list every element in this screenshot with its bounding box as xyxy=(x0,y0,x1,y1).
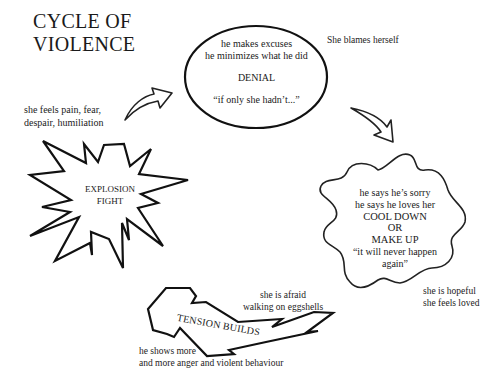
fight-label: FIGHT xyxy=(55,195,165,207)
explosion-side-note: she feels pain, fear, despair, humiliati… xyxy=(24,103,104,129)
tension-top-note-2: walking on eggshells xyxy=(213,301,353,313)
make-up-label: MAKE UP xyxy=(330,234,460,246)
title-line-2: VIOLENCE xyxy=(33,33,135,56)
explosion-side-note-2: despair, humiliation xyxy=(24,116,104,129)
cool-down-stage-text: he says he’s sorry he says he loves her … xyxy=(330,187,460,270)
cool-down-side-note-2: she feels loved xyxy=(423,297,479,309)
cool-down-side-note: she is hopeful she feels loved xyxy=(423,285,479,309)
cool-down-line-2: he says he loves her xyxy=(330,199,460,211)
title-line-1: CYCLE OF xyxy=(33,10,135,33)
cool-down-line-1: he says he’s sorry xyxy=(330,187,460,199)
explosion-label: EXPLOSION xyxy=(55,183,165,195)
arrow-up-right-icon xyxy=(125,88,172,120)
tension-bottom-note: he shows more and more anger and violent… xyxy=(139,345,283,369)
denial-line-2: he minimizes what he did xyxy=(185,50,328,62)
cool-down-or: OR xyxy=(330,222,460,234)
explosion-stage-text: EXPLOSION FIGHT xyxy=(55,183,165,207)
cool-down-quote-1: “it will never happen xyxy=(330,246,460,258)
tension-bottom-note-2: and more anger and violent behaviour xyxy=(139,357,283,369)
cool-down-quote-2: again” xyxy=(330,258,460,270)
cool-down-side-note-1: she is hopeful xyxy=(423,285,479,297)
arrow-down-right-icon xyxy=(351,108,393,142)
cycle-of-violence-diagram: CYCLE OF VIOLENCE he makes excuses he mi… xyxy=(0,0,498,385)
explosion-side-note-1: she feels pain, fear, xyxy=(24,103,104,116)
tension-top-note: she is afraid walking on eggshells xyxy=(213,289,353,313)
tension-top-note-1: she is afraid xyxy=(213,289,353,301)
denial-stage-text: he makes excuses he minimizes what he di… xyxy=(185,38,328,106)
denial-label: DENIAL xyxy=(185,72,328,84)
cool-down-label: COOL DOWN xyxy=(330,211,460,223)
tension-bottom-note-1: he shows more xyxy=(139,345,283,357)
page-title: CYCLE OF VIOLENCE xyxy=(33,10,135,56)
denial-quote: “if only she hadn’t...” xyxy=(185,94,328,106)
denial-line-1: he makes excuses xyxy=(185,38,328,50)
denial-side-note: She blames herself xyxy=(327,34,399,47)
